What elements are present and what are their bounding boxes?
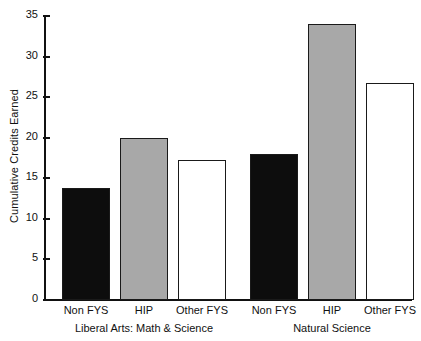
y-tick: 20	[43, 137, 50, 139]
y-tick-label: 35	[12, 8, 38, 21]
group-label: Liberal Arts: Math & Science	[34, 322, 254, 335]
bar	[178, 160, 226, 300]
y-tick-label: 0	[12, 292, 38, 305]
y-tick-label: 15	[12, 170, 38, 183]
bar	[308, 24, 356, 300]
category-label: Other FYS	[166, 304, 238, 317]
y-tick: 10	[43, 218, 50, 220]
y-tick-label: 5	[12, 251, 38, 264]
y-tick: 25	[43, 96, 50, 98]
bar	[366, 83, 414, 300]
y-tick: 0	[43, 299, 50, 301]
y-tick: 5	[43, 258, 50, 260]
y-tick-label: 30	[12, 49, 38, 62]
bar	[250, 154, 298, 300]
category-label: Other FYS	[354, 304, 421, 317]
group-label: Natural Science	[222, 322, 421, 335]
y-tick-label: 20	[12, 130, 38, 143]
bar	[62, 188, 110, 300]
y-tick: 35	[43, 15, 50, 17]
y-tick-label: 25	[12, 89, 38, 102]
y-tick: 15	[43, 177, 50, 179]
bar	[120, 138, 168, 300]
y-tick-label: 10	[12, 211, 38, 224]
y-tick: 30	[43, 56, 50, 58]
y-axis-title: Cumulative Credits Earned	[8, 56, 20, 256]
plot-area: 05101520253035	[44, 16, 412, 300]
